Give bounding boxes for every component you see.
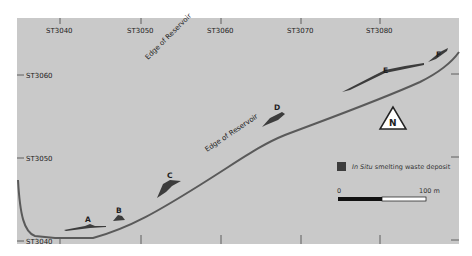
x-grid-label-3050: ST3050 [127,27,154,35]
scale-bar [338,197,426,201]
legend-label: In Situ smelting waste deposit [352,163,450,171]
y-grid-label-3040: ST3040 [26,238,53,246]
site-label-e: E [383,66,388,75]
site-label-a: A [85,215,91,224]
edge-of-reservoir-label-lower: Edge of Reservoir [204,112,260,153]
x-grid-label-3040: ST3040 [46,27,73,35]
reservoir-edge-line [18,52,459,238]
map-overlay: A B C D E F ST3040 ST3050 ST3060 ST3070 … [0,0,472,256]
deposits [64,48,448,231]
x-grid-label-3070: ST3070 [287,27,314,35]
edge-of-reservoir-label-upper: Edge of Reservoir [144,12,193,61]
x-grid-label-3060: ST3060 [207,27,234,35]
north-label: N [389,118,397,128]
legend-rest: smelting waste deposit [373,163,451,171]
right-grid-ticks [451,74,459,240]
deposit-c [157,180,181,198]
site-label-c: C [167,171,173,180]
site-label-f: F [436,50,441,59]
deposit-b [113,215,125,221]
x-grid-label-3080: ST3080 [366,27,393,35]
legend-italic: In Situ [352,163,373,171]
scale-end-label: 100 m [419,187,440,195]
y-grid-label-3050: ST3050 [26,155,53,163]
legend-swatch [337,162,346,171]
deposit-a [64,224,106,231]
bottom-grid-ticks [60,235,380,244]
scale-start-label: 0 [337,187,341,195]
top-grid-ticks [60,18,380,24]
site-label-b: B [116,206,122,215]
deposit-d [262,112,285,127]
site-label-d: D [274,103,280,112]
north-arrow-icon: N [380,107,406,129]
y-grid-label-3060: ST3060 [26,72,53,80]
